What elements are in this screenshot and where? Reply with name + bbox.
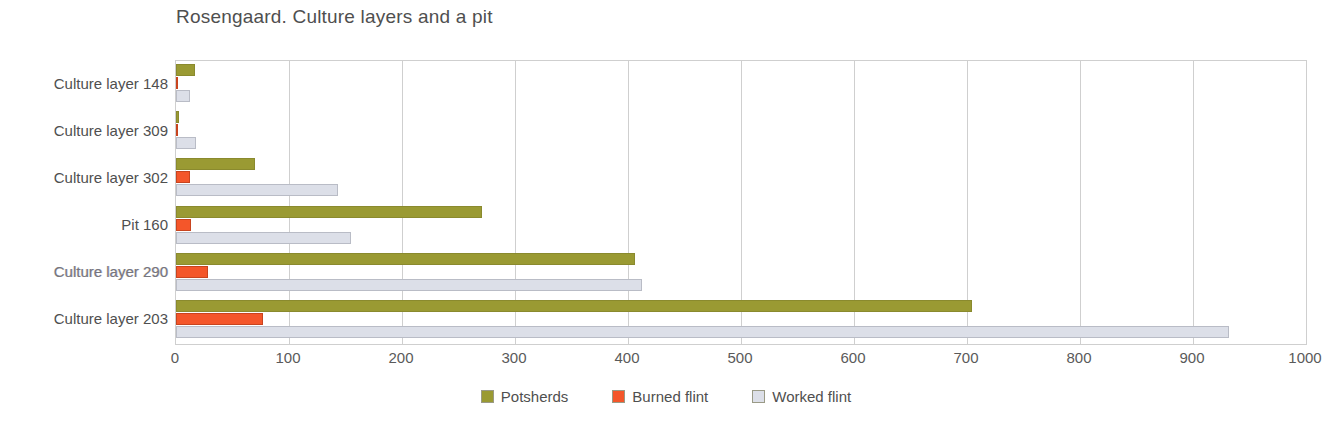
y-axis-tick-label: Culture layer 148	[0, 75, 168, 92]
bar-group	[176, 108, 1306, 155]
bar-worked-flint	[176, 326, 1229, 338]
legend-item[interactable]: Potsherds	[481, 388, 569, 405]
legend-item[interactable]: Burned flint	[612, 388, 708, 405]
legend-swatch-icon	[752, 390, 765, 403]
legend-label: Burned flint	[632, 388, 708, 405]
legend-swatch-icon	[612, 390, 625, 403]
x-axis-tick-label: 500	[727, 349, 752, 366]
gridline	[1306, 61, 1307, 344]
bar-burned-flint	[176, 124, 178, 136]
bar-potsherds	[176, 253, 635, 265]
y-axis-label-group: Culture layer 148Culture layer 309Cultur…	[0, 60, 168, 345]
bar-group	[176, 297, 1306, 344]
bar-burned-flint	[176, 313, 263, 325]
y-axis-tick-label: Culture layer 290	[0, 263, 168, 280]
y-axis-tick-label: Culture layer 302	[0, 169, 168, 186]
chart-title: Rosengaard. Culture layers and a pit	[176, 6, 493, 28]
bar-worked-flint	[176, 90, 190, 102]
bar-burned-flint	[176, 171, 190, 183]
bar-potsherds	[176, 158, 255, 170]
y-axis-tick-label: Culture layer 203	[0, 310, 168, 327]
x-axis-tick-label: 300	[501, 349, 526, 366]
bar-group	[176, 61, 1306, 108]
bar-worked-flint	[176, 137, 196, 149]
x-axis-label-group: 01002003004005006007008009001000	[0, 349, 1332, 373]
y-axis-tick-label: Pit 160	[0, 216, 168, 233]
x-axis-tick-label: 600	[840, 349, 865, 366]
bar-potsherds	[176, 111, 179, 123]
x-axis-tick-label: 800	[1066, 349, 1091, 366]
bar-group	[176, 203, 1306, 250]
bar-worked-flint	[176, 184, 338, 196]
bar-potsherds	[176, 64, 195, 76]
chart-legend: PotsherdsBurned flintWorked flint	[0, 388, 1332, 405]
x-axis-tick-label: 0	[171, 349, 179, 366]
x-axis-tick-label: 700	[953, 349, 978, 366]
x-axis-tick-label: 1000	[1288, 349, 1321, 366]
x-axis-tick-label: 200	[388, 349, 413, 366]
legend-label: Worked flint	[772, 388, 851, 405]
bar-worked-flint	[176, 279, 642, 291]
x-axis-tick-label: 900	[1179, 349, 1204, 366]
bar-potsherds	[176, 206, 482, 218]
legend-item[interactable]: Worked flint	[752, 388, 851, 405]
chart-container: Rosengaard. Culture layers and a pit Cul…	[0, 0, 1332, 441]
y-axis-tick-label: Culture layer 309	[0, 122, 168, 139]
bar-group	[176, 250, 1306, 297]
legend-swatch-icon	[481, 390, 494, 403]
legend-label: Potsherds	[501, 388, 569, 405]
bar-burned-flint	[176, 77, 178, 89]
bar-burned-flint	[176, 219, 191, 231]
bar-burned-flint	[176, 266, 208, 278]
bar-potsherds	[176, 300, 972, 312]
x-axis-tick-label: 100	[275, 349, 300, 366]
plot-area	[175, 60, 1307, 345]
bar-worked-flint	[176, 232, 351, 244]
bar-group	[176, 155, 1306, 202]
x-axis-tick-label: 400	[614, 349, 639, 366]
